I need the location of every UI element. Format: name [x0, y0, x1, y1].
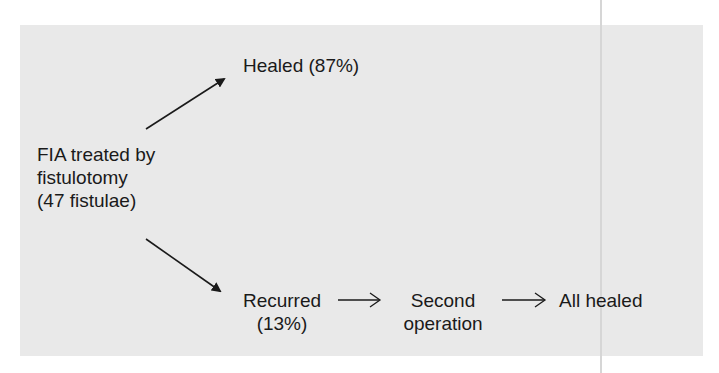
- node-recurred: Recurred (13%): [236, 289, 328, 335]
- node-second-operation-line1: Second: [395, 289, 491, 312]
- arrow-to-recurred: [146, 239, 220, 291]
- node-second-operation: Second operation: [395, 289, 491, 335]
- node-start-line3: (47 fistulae): [37, 189, 155, 212]
- arrow-recurred-to-second-op: [338, 293, 380, 307]
- arrow-to-healed: [146, 79, 224, 129]
- node-healed: Healed (87%): [243, 54, 359, 77]
- node-all-healed: All healed: [559, 289, 642, 312]
- node-start-line2: fistulotomy: [37, 166, 155, 189]
- node-recurred-line2: (13%): [236, 312, 328, 335]
- node-healed-label: Healed (87%): [243, 55, 359, 76]
- node-recurred-line1: Recurred: [236, 289, 328, 312]
- node-start-line1: FIA treated by: [37, 143, 155, 166]
- node-all-healed-label: All healed: [559, 290, 642, 311]
- arrow-second-op-to-all-healed: [502, 293, 545, 307]
- node-second-operation-line2: operation: [395, 312, 491, 335]
- node-start: FIA treated by fistulotomy (47 fistulae): [37, 143, 155, 212]
